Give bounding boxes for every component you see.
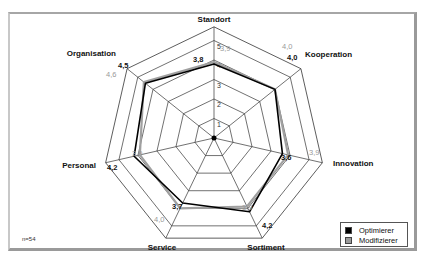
value-label-modifizierer: 4,0	[282, 42, 292, 51]
axis-label-kooperation: Kooperation	[305, 50, 352, 59]
value-label-modifizierer: 4,0	[154, 215, 164, 224]
axis-spoke	[166, 138, 214, 238]
radar-chart: 12345StandortKooperationInnovationSortim…	[0, 0, 424, 260]
value-label-optimierer: 3,7	[172, 202, 182, 211]
axis-label-personal: Personal	[62, 161, 96, 170]
axis-label-organisation: Organisation	[67, 49, 116, 58]
value-label-optimierer: 4,2	[262, 221, 272, 230]
value-label-modifizierer: 3,9	[132, 149, 142, 158]
legend-swatch-optimierer	[345, 227, 352, 234]
legend-item-optimierer: Optimierer	[345, 225, 403, 235]
legend-label: Modifizierer	[359, 236, 398, 245]
axis-label-standort: Standort	[198, 15, 231, 24]
legend-swatch-modifizierer	[345, 237, 352, 244]
value-label-modifizierer: 3,9	[309, 148, 319, 157]
axis-spoke	[214, 138, 262, 238]
sample-size-note: n=54	[22, 236, 36, 242]
value-label-optimierer: 4,0	[287, 53, 297, 62]
axis-spoke	[214, 138, 322, 163]
center-dot	[212, 136, 217, 141]
axis-spoke	[127, 69, 214, 138]
value-label-modifizierer: 3,9	[242, 203, 252, 212]
value-label-optimierer: 3,6	[281, 153, 291, 162]
ring-tick-label: 1	[217, 121, 221, 128]
legend-label: Optimierer	[359, 226, 394, 235]
axis-label-sortiment: Sortiment	[247, 243, 285, 252]
value-label-modifizierer: 3,9	[220, 44, 230, 53]
ring-tick-label: 2	[217, 101, 221, 108]
axis-label-service: Service	[148, 243, 177, 252]
value-label-optimierer: 4,5	[118, 61, 128, 70]
axis-spoke	[214, 69, 301, 138]
value-label-modifizierer: 4,6	[106, 70, 116, 79]
legend: Optimierer Modifizierer	[340, 222, 408, 247]
ring-tick-label: 3	[217, 82, 221, 89]
legend-item-modifizierer: Modifizierer	[345, 235, 403, 245]
value-label-optimierer: 3,8	[193, 55, 203, 64]
axis-spoke	[106, 138, 214, 163]
axis-label-innovation: Innovation	[333, 159, 374, 168]
value-label-optimierer: 4,2	[107, 163, 117, 172]
